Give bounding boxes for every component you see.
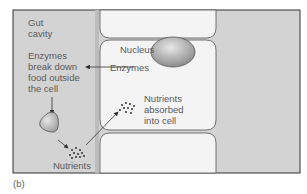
label-nutrients-absorbed: Nutrients absorbed into cell: [144, 93, 184, 126]
top-cell: [100, 10, 216, 38]
label-nutrients: Nutrients: [53, 160, 91, 171]
label-enzymes: Enzymes: [110, 62, 149, 73]
bottom-cell: [100, 133, 216, 173]
nucleus: [151, 37, 195, 67]
label-enzymes-break-down: Enzymes break down food outside the cell: [28, 50, 80, 94]
label-gut-cavity: Gut cavity: [28, 17, 52, 39]
label-nucleus: Nucleus: [120, 44, 154, 55]
panel-label: (b): [13, 178, 25, 189]
